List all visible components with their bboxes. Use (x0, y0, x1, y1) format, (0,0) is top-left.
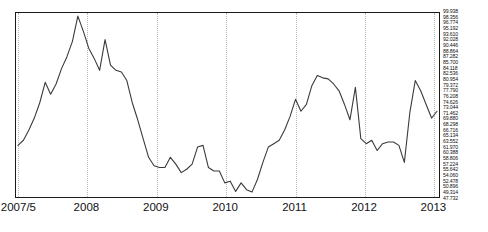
x-tick-label: 2009 (143, 201, 169, 213)
y-axis-tick-labels: 99.93898.35696.77495.19293.61092.02890.4… (443, 9, 488, 201)
series-layer (16, 13, 439, 197)
chart-screenshot: 99.93898.35696.77495.19293.61092.02890.4… (0, 0, 488, 232)
x-tick-label: 2010 (212, 201, 238, 213)
x-tick-label: 2013 (421, 201, 447, 213)
x-tick-label: 2012 (351, 201, 377, 213)
line-series-1 (18, 16, 437, 192)
x-tick-label: 2011 (282, 201, 307, 213)
plot-area (15, 12, 440, 198)
x-axis-tick-labels: 2007/5200820092010201120122013 (0, 201, 488, 221)
x-tick-label: 2008 (74, 201, 100, 213)
x-tick-label: 2007/5 (1, 201, 36, 213)
